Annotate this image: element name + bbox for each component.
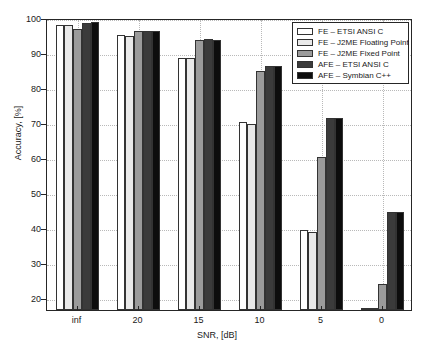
- bar: [213, 40, 222, 310]
- y-tick-mark: [41, 124, 46, 125]
- y-tick-mark: [41, 229, 46, 230]
- gridline-horizontal: [47, 160, 411, 161]
- legend-label: AFE – Symbian C++: [318, 71, 391, 80]
- y-tick-mark: [41, 194, 46, 195]
- y-tick-label: 100: [26, 15, 41, 24]
- bar: [396, 212, 405, 310]
- x-tick-label: 5: [318, 315, 323, 325]
- legend-item: FE – J2ME Fixed Point: [297, 48, 404, 58]
- chart-figure: 2030405060708090100 inf20151050 Accuracy…: [0, 0, 434, 360]
- legend-swatch-icon: [297, 28, 313, 35]
- x-axis-title: SNR, [dB]: [0, 330, 434, 340]
- bar: [300, 230, 309, 310]
- y-tick-mark: [41, 264, 46, 265]
- legend-label: FE – J2ME Floating Point: [318, 38, 409, 47]
- x-tick-mark: [77, 306, 78, 311]
- legend-item: FE – ETSI ANSI C: [297, 26, 404, 36]
- x-tick-label: 0: [379, 315, 384, 325]
- legend-swatch-icon: [297, 39, 313, 46]
- gridline-horizontal: [47, 195, 411, 196]
- bar: [274, 66, 283, 310]
- y-tick-mark: [41, 19, 46, 20]
- x-tick-mark: [382, 306, 383, 311]
- y-tick-label: 60: [31, 155, 41, 164]
- y-tick-mark: [41, 299, 46, 300]
- legend: FE – ETSI ANSI CFE – J2ME Floating Point…: [292, 22, 409, 84]
- gridline-horizontal: [47, 230, 411, 231]
- gridline-horizontal: [47, 125, 411, 126]
- y-tick-label: 20: [31, 295, 41, 304]
- legend-item: FE – J2ME Floating Point: [297, 37, 404, 47]
- bar: [308, 232, 317, 310]
- y-tick-mark: [41, 54, 46, 55]
- legend-swatch-icon: [297, 61, 313, 68]
- y-tick-label: 80: [31, 85, 41, 94]
- x-tick-label: 15: [193, 315, 203, 325]
- bar: [387, 212, 396, 310]
- legend-item: AFE – Symbian C++: [297, 70, 404, 80]
- x-tick-label: inf: [72, 315, 82, 325]
- gridline-horizontal: [47, 90, 411, 91]
- bar: [134, 31, 143, 310]
- legend-label: FE – ETSI ANSI C: [318, 27, 383, 36]
- y-axis-title: Accuracy, [%]: [13, 73, 23, 193]
- bar: [361, 308, 370, 310]
- bar: [152, 31, 161, 310]
- y-tick-label: 90: [31, 50, 41, 59]
- bar: [82, 23, 91, 310]
- x-tick-mark: [321, 306, 322, 311]
- bar: [195, 40, 204, 310]
- legend-label: AFE – ETSI ANSI C: [318, 60, 389, 69]
- bar: [91, 22, 100, 310]
- bar: [369, 308, 378, 310]
- x-tick-mark: [199, 306, 200, 311]
- y-tick-label: 70: [31, 120, 41, 129]
- bar: [265, 66, 274, 310]
- x-tick-mark: [260, 306, 261, 311]
- bar: [178, 58, 187, 310]
- bar: [317, 157, 326, 310]
- bar: [125, 36, 134, 311]
- legend-swatch-icon: [297, 50, 313, 57]
- y-tick-label: 50: [31, 190, 41, 199]
- x-tick-label: 20: [132, 315, 142, 325]
- gridline-horizontal: [47, 300, 411, 301]
- bar: [335, 118, 344, 310]
- bar: [64, 25, 73, 310]
- bar: [326, 118, 335, 310]
- bar: [204, 39, 213, 310]
- bar: [73, 29, 82, 311]
- bar: [186, 58, 195, 310]
- gridline-horizontal: [47, 265, 411, 266]
- bar: [56, 25, 65, 310]
- gridline-horizontal: [47, 20, 411, 21]
- x-tick-mark: [138, 306, 139, 311]
- legend-item: AFE – ETSI ANSI C: [297, 59, 404, 69]
- x-tick-label: 10: [254, 315, 264, 325]
- y-tick-mark: [41, 89, 46, 90]
- bar: [239, 122, 248, 310]
- bar: [143, 31, 152, 310]
- y-tick-mark: [41, 159, 46, 160]
- bar: [247, 124, 256, 310]
- bar: [256, 71, 265, 310]
- legend-swatch-icon: [297, 72, 313, 79]
- legend-label: FE – J2ME Fixed Point: [318, 49, 400, 58]
- y-tick-label: 40: [31, 225, 41, 234]
- y-tick-label: 30: [31, 260, 41, 269]
- bar: [117, 35, 126, 310]
